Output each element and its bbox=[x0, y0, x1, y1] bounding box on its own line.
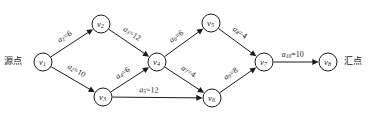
network-diagram: v1v2v3v4v5v6v7v8 a1=6a2=10a3=12a4=6a5=12… bbox=[0, 0, 368, 127]
arrowhead-a7 bbox=[197, 87, 204, 93]
arrowhead-a10 bbox=[312, 59, 318, 65]
arrowhead-a6 bbox=[197, 29, 204, 35]
edge-label-a9: a9=8 bbox=[222, 65, 240, 81]
edge-label-a4: a4=6 bbox=[114, 65, 132, 81]
arrowhead-a4 bbox=[142, 67, 149, 73]
source-node-label: 源点 bbox=[4, 57, 22, 66]
edge-label-a5: a5=12 bbox=[139, 85, 158, 94]
edge-label-a1: a1=6 bbox=[56, 28, 74, 44]
arrowhead-a5 bbox=[196, 95, 202, 101]
graph-canvas: v1v2v3v4v5v6v7v8 a1=6a2=10a3=12a4=6a5=12… bbox=[0, 0, 368, 127]
arrowhead-a1 bbox=[86, 29, 93, 35]
edge-label-a8: a8=4 bbox=[231, 24, 249, 41]
edge-a5 bbox=[112, 97, 197, 98]
edge-label-a10: a10=10 bbox=[282, 50, 304, 59]
nodes-layer: v1v2v3v4v5v6v7v8 bbox=[34, 14, 337, 107]
edge-label-a7: a7=4 bbox=[180, 63, 198, 79]
arrowhead-a8 bbox=[250, 50, 257, 56]
sink-node-label: 汇点 bbox=[344, 57, 362, 66]
edge-label-a6: a6=6 bbox=[167, 28, 185, 44]
arrowhead-a9 bbox=[249, 67, 256, 73]
arrowhead-a3 bbox=[142, 51, 149, 57]
